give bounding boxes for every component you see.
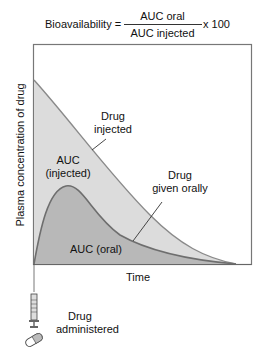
oral-curve-label: Drug given orally: [140, 169, 220, 195]
syringe-icon: [29, 294, 39, 328]
pill-icon: [24, 332, 44, 348]
auc-oral-label: AUC (oral): [70, 243, 122, 256]
injected-pointer: [92, 139, 106, 150]
y-axis-label: Plasma concentration of drug: [14, 83, 27, 226]
x-axis-label: Time: [126, 271, 150, 284]
administered-label: Drug administered: [56, 310, 119, 336]
auc-injected-label: AUC (injected): [40, 154, 96, 180]
injected-curve-label: Drug injected: [88, 110, 138, 136]
